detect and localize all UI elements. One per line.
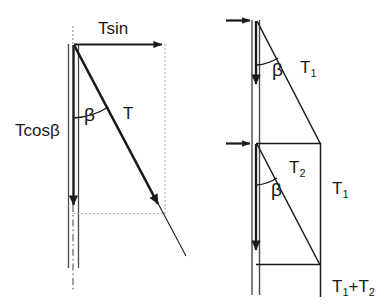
label-reaction-t1-plus-t2: T1+T2 [332, 278, 375, 298]
label-vector-t2-lower-base: T [289, 158, 299, 177]
label-reaction-t1-middle: T1 [332, 180, 349, 200]
label-vector-t2-lower-subscript: 2 [299, 167, 305, 179]
label-angle-beta-right-upper: β [272, 60, 283, 79]
label-reaction-sum-plus: +T [349, 277, 369, 296]
label-reaction-t1-middle-subscript: 1 [342, 188, 348, 200]
right-vector-t1-upper-diagonal [257, 21, 320, 143]
physics-diagram-figure: Tsin Tcosβ β T β T1 β T2 T1 T1+T2 [0, 0, 389, 305]
label-tsin: Tsin [98, 20, 128, 37]
label-tcosbeta: Tcosβ [15, 122, 60, 139]
label-vector-t: T [123, 105, 133, 122]
label-vector-t2-lower: T2 [289, 159, 306, 179]
left-diagram-group [69, 26, 187, 290]
label-reaction-sum-base-a: T [332, 277, 342, 296]
label-vector-t1-upper-base: T [300, 58, 310, 77]
label-angle-beta-right-lower: β [271, 180, 282, 199]
label-reaction-sum-sub-b: 2 [369, 286, 375, 298]
label-vector-t1-upper: T1 [300, 59, 317, 79]
label-angle-beta-left: β [84, 105, 95, 124]
label-vector-t1-upper-subscript: 1 [310, 67, 316, 79]
label-reaction-t1-middle-base: T [332, 179, 342, 198]
diagram-canvas [0, 0, 389, 305]
